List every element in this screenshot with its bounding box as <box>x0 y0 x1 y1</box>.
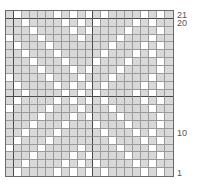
chart-cell <box>125 160 133 168</box>
chart-cell <box>101 90 109 98</box>
chart-cell <box>157 27 165 35</box>
chart-cell <box>78 58 86 66</box>
chart-cell <box>70 19 78 27</box>
chart-cell <box>30 129 38 137</box>
chart-cell <box>149 168 157 176</box>
chart-cell <box>54 105 62 113</box>
chart-cell <box>125 97 133 105</box>
chart-cell <box>38 168 46 176</box>
chart-cell <box>70 152 78 160</box>
chart-cell <box>6 137 14 145</box>
chart-cell <box>14 152 22 160</box>
chart-cell <box>46 19 54 27</box>
chart-cell <box>54 129 62 137</box>
chart-cell <box>62 11 70 19</box>
chart-cell <box>54 27 62 35</box>
chart-cell <box>125 105 133 113</box>
chart-cell <box>70 27 78 35</box>
chart-cell <box>78 11 86 19</box>
chart-cell <box>54 113 62 121</box>
chart-cell <box>125 11 133 19</box>
chart-cell <box>38 82 46 90</box>
chart-cell <box>6 50 14 58</box>
chart-cell <box>101 82 109 90</box>
chart-cell <box>149 35 157 43</box>
chart-cell <box>46 27 54 35</box>
chart-cell <box>22 74 30 82</box>
chart-cell <box>78 19 86 27</box>
chart-cell <box>165 129 173 137</box>
chart-cell <box>101 74 109 82</box>
chart-cell <box>62 66 70 74</box>
chart-cell <box>46 42 54 50</box>
chart-cell <box>93 145 101 153</box>
chart-cell <box>149 74 157 82</box>
chart-cell <box>157 82 165 90</box>
chart-cell <box>14 50 22 58</box>
chart-cell <box>117 42 125 50</box>
chart-cell <box>30 35 38 43</box>
chart-cell <box>78 168 86 176</box>
chart-cell <box>22 66 30 74</box>
chart-cell <box>149 137 157 145</box>
chart-cell <box>14 58 22 66</box>
chart-cell <box>46 168 54 176</box>
chart-cell <box>149 105 157 113</box>
chart-cell <box>109 97 117 105</box>
chart-cell <box>46 113 54 121</box>
chart-cell <box>46 105 54 113</box>
chart-cell <box>86 82 94 90</box>
chart-cell <box>54 121 62 129</box>
colorwork-chart-grid <box>5 10 174 177</box>
chart-cell <box>38 90 46 98</box>
chart-cell <box>157 160 165 168</box>
chart-cell <box>86 50 94 58</box>
chart-cell <box>38 113 46 121</box>
chart-cell <box>165 90 173 98</box>
chart-cell <box>22 160 30 168</box>
chart-cell <box>141 19 149 27</box>
chart-cell <box>70 11 78 19</box>
chart-cell <box>86 105 94 113</box>
chart-cell <box>86 145 94 153</box>
chart-cell <box>54 137 62 145</box>
chart-cell <box>14 35 22 43</box>
chart-cell <box>70 50 78 58</box>
chart-cell <box>101 66 109 74</box>
chart-cell <box>141 82 149 90</box>
chart-cell <box>22 168 30 176</box>
chart-cell <box>54 90 62 98</box>
chart-cell <box>133 168 141 176</box>
chart-cell <box>62 35 70 43</box>
chart-cell <box>101 58 109 66</box>
chart-cell <box>54 19 62 27</box>
chart-cell <box>165 35 173 43</box>
chart-cell <box>62 74 70 82</box>
chart-cell <box>6 160 14 168</box>
chart-cell <box>117 50 125 58</box>
chart-cell <box>30 168 38 176</box>
chart-cell <box>101 160 109 168</box>
chart-cell <box>78 137 86 145</box>
chart-cell <box>30 66 38 74</box>
chart-cell <box>30 11 38 19</box>
chart-cell <box>149 121 157 129</box>
chart-cell <box>117 137 125 145</box>
chart-cell <box>46 82 54 90</box>
chart-cell <box>30 152 38 160</box>
chart-cell <box>62 19 70 27</box>
chart-cell <box>78 160 86 168</box>
chart-cell <box>14 97 22 105</box>
chart-cell <box>14 90 22 98</box>
chart-cell <box>46 11 54 19</box>
chart-cell <box>101 27 109 35</box>
chart-cell <box>117 19 125 27</box>
chart-cell <box>46 74 54 82</box>
chart-cell <box>157 113 165 121</box>
chart-cell <box>14 19 22 27</box>
chart-cell <box>22 11 30 19</box>
chart-cell <box>165 50 173 58</box>
chart-cell <box>54 74 62 82</box>
chart-cell <box>54 66 62 74</box>
chart-cell <box>6 97 14 105</box>
